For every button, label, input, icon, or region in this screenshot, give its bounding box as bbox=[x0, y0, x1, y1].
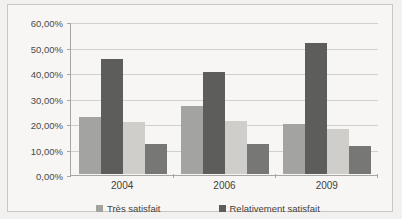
x-axis-category-label: 2004 bbox=[71, 180, 173, 191]
bar[interactable] bbox=[283, 124, 305, 174]
chart-legend: Très satisfaitRelativement satisfait bbox=[70, 203, 380, 214]
y-axis-tick-label: 10,00% bbox=[8, 145, 63, 156]
y-axis-tick-label: 30,00% bbox=[8, 94, 63, 105]
bar-group bbox=[276, 23, 378, 174]
bar[interactable] bbox=[327, 129, 349, 174]
legend-swatch-icon bbox=[219, 205, 226, 212]
y-axis-tick-label: 50,00% bbox=[8, 43, 63, 54]
y-axis-tick bbox=[67, 125, 71, 126]
bar[interactable] bbox=[145, 144, 167, 174]
legend-item-label: Très satisfait bbox=[107, 203, 161, 214]
y-axis-tick bbox=[67, 176, 71, 177]
y-axis-tick bbox=[67, 49, 71, 50]
bar[interactable] bbox=[247, 144, 269, 174]
plot-area bbox=[70, 23, 378, 176]
bar[interactable] bbox=[123, 122, 145, 174]
x-axis-category-label: 2009 bbox=[276, 180, 378, 191]
y-axis-tick bbox=[67, 74, 71, 75]
bar[interactable] bbox=[305, 43, 327, 174]
legend-item[interactable]: Très satisfait bbox=[96, 203, 161, 214]
bar[interactable] bbox=[349, 146, 371, 174]
bar[interactable] bbox=[79, 117, 101, 174]
legend-item-label: Relativement satisfait bbox=[230, 203, 320, 214]
y-axis-tick bbox=[67, 100, 71, 101]
bar-group bbox=[174, 23, 276, 174]
bar-series-container bbox=[72, 23, 378, 174]
y-axis-tick-label: 60,00% bbox=[8, 18, 63, 29]
y-axis-tick-label: 40,00% bbox=[8, 69, 63, 80]
x-axis-category-label: 2006 bbox=[173, 180, 275, 191]
plot-wrap bbox=[70, 23, 378, 176]
chart-frame: 60,00%50,00%40,00%30,00%20,00%10,00%0,00… bbox=[7, 4, 393, 212]
legend-swatch-icon bbox=[96, 205, 103, 212]
x-axis-tick bbox=[377, 174, 378, 178]
x-axis-labels: 200420062009 bbox=[71, 180, 378, 191]
bar[interactable] bbox=[181, 106, 203, 174]
legend-item[interactable]: Relativement satisfait bbox=[219, 203, 320, 214]
bar[interactable] bbox=[203, 72, 225, 174]
y-axis-tick-label: 20,00% bbox=[8, 120, 63, 131]
y-axis-tick bbox=[67, 151, 71, 152]
bar[interactable] bbox=[101, 59, 123, 174]
x-axis-tick bbox=[275, 174, 276, 178]
x-axis-tick bbox=[173, 174, 174, 178]
bar[interactable] bbox=[225, 121, 247, 174]
y-axis-tick bbox=[67, 23, 71, 24]
y-axis-tick-label: 0,00% bbox=[8, 171, 63, 182]
bar-group bbox=[72, 23, 174, 174]
